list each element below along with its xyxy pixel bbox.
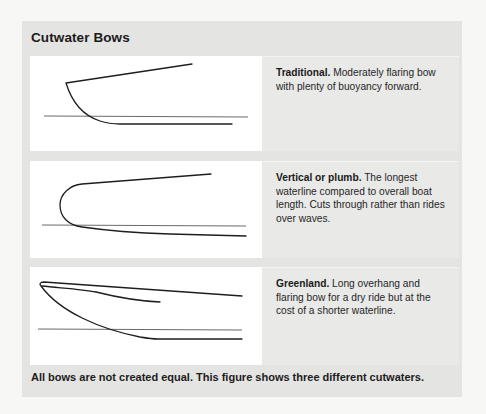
bow-name: Traditional. [276, 67, 330, 78]
hull-outline [66, 64, 232, 124]
bow-drawing-panel [30, 267, 262, 365]
hull-outline [60, 174, 246, 236]
waterline [42, 225, 246, 226]
plumb-bow-profile-icon [30, 161, 262, 258]
waterline [38, 329, 242, 330]
bow-name: Vertical or plumb. [276, 172, 361, 183]
bow-description: Greenland. Long overhang and flaring bow… [262, 267, 459, 365]
bow-row-plumb: Vertical or plumb. The longest waterline… [30, 161, 459, 258]
greenland-bow-profile-icon [30, 267, 262, 365]
bow-description: Traditional. Moderately flaring bow with… [262, 56, 459, 151]
figure-caption: All bows are not created equal. This fig… [31, 371, 424, 383]
traditional-bow-profile-icon [30, 56, 262, 151]
bow-row-traditional: Traditional. Moderately flaring bow with… [30, 56, 459, 151]
waterline [44, 116, 248, 117]
bow-row-greenland: Greenland. Long overhang and flaring bow… [30, 267, 459, 365]
hull-outline [40, 282, 242, 339]
bow-description: Vertical or plumb. The longest waterline… [262, 161, 459, 258]
bow-name: Greenland. [276, 278, 329, 289]
figure-title: Cutwater Bows [31, 30, 130, 45]
bow-drawing-panel [30, 161, 262, 258]
bow-drawing-panel [30, 56, 262, 151]
figure-box: Cutwater Bows Traditional. Moderately fl… [22, 21, 462, 397]
